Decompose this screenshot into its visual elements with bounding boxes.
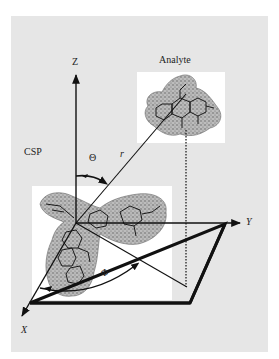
analyte-label: Analyte xyxy=(159,55,191,65)
theta-label: Θ xyxy=(89,153,96,163)
x-axis-label: X xyxy=(21,325,27,335)
diagram-canvas xyxy=(0,0,279,359)
z-axis-label: Z xyxy=(72,57,78,67)
r-label: r xyxy=(120,149,124,159)
csp-label: CSP xyxy=(24,147,42,157)
phi-label: Φ xyxy=(101,268,108,278)
y-axis-label: Y xyxy=(246,217,252,227)
